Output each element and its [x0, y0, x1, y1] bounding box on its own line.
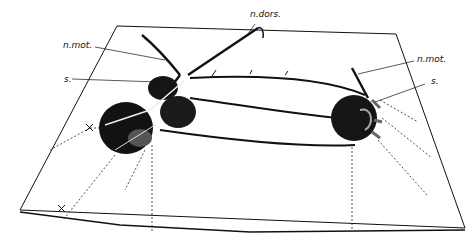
label-n-dors: n.dors. — [250, 10, 281, 19]
label-n-mot-left: n.mot. — [63, 41, 92, 50]
label-n-mot-right: n.mot. — [417, 55, 446, 64]
right-ganglion — [331, 95, 382, 141]
label-s-left: s. — [64, 75, 72, 84]
label-s-right: s. — [431, 77, 439, 86]
anatomical-drawing — [0, 0, 471, 241]
tissue-sheet-outline — [20, 26, 465, 228]
